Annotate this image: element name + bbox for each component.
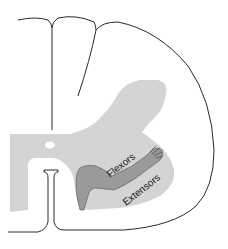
dorsal-horn-line — [78, 30, 96, 96]
spinal-cord-diagram: Flexors Extensors — [0, 0, 228, 249]
central-canal — [45, 142, 55, 149]
